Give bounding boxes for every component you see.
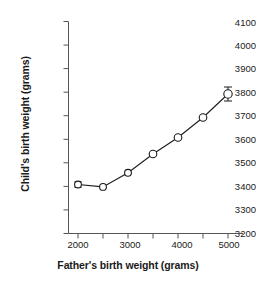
data-point bbox=[100, 184, 107, 191]
data-point bbox=[75, 181, 82, 188]
y-tick-marks bbox=[64, 22, 69, 234]
data-point bbox=[149, 150, 157, 158]
data-point bbox=[199, 114, 207, 122]
plot-area bbox=[0, 0, 256, 285]
data-point bbox=[224, 90, 232, 98]
error-bars bbox=[75, 87, 233, 187]
chart-figure: Child's birth weight (grams) 4100 4000 3… bbox=[0, 0, 256, 285]
data-point bbox=[125, 169, 132, 176]
data-line-series-1 bbox=[78, 94, 228, 187]
data-markers bbox=[75, 90, 233, 191]
x-tick-marks bbox=[78, 234, 228, 239]
data-point bbox=[174, 134, 182, 142]
